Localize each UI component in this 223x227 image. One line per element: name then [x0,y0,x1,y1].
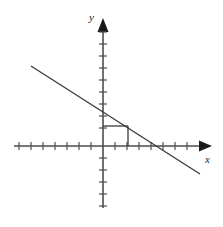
y-axis-label: y [89,12,94,23]
x-axis-label: x [205,154,210,165]
axes-group [14,18,212,208]
plot-canvas [0,0,223,227]
x-axis-arrowhead [199,141,212,152]
plotted-line [31,66,200,174]
graph-figure: y x [0,0,223,227]
y-axis-arrowhead [98,18,109,32]
